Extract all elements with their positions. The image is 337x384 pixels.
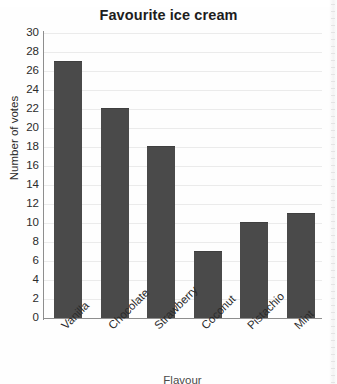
scan-artifact-tick	[331, 18, 335, 19]
scan-artifact-tick	[331, 81, 335, 82]
scan-artifact-tick	[331, 39, 335, 40]
scan-artifact-right	[329, 0, 337, 384]
gridline	[43, 90, 322, 91]
gridline	[43, 128, 322, 129]
gridline	[43, 166, 322, 167]
scan-artifact-tick	[331, 46, 335, 47]
gridline	[43, 71, 322, 72]
scan-artifact-tick	[331, 130, 335, 131]
y-axis-tick-label: 10	[3, 217, 39, 229]
scan-artifact-tick	[331, 137, 335, 138]
gridline	[43, 280, 322, 281]
scan-artifact-tick	[331, 172, 335, 173]
y-axis-tick-label: 0	[3, 312, 39, 324]
scan-artifact-tick	[331, 277, 335, 278]
gridline	[43, 33, 322, 34]
scan-artifact-tick	[331, 382, 335, 383]
scan-artifact-tick	[331, 67, 335, 68]
scan-artifact-top	[0, 0, 337, 7]
y-axis-tick-label: 30	[3, 27, 39, 39]
scan-artifact-tick	[331, 284, 335, 285]
x-axis-title: Flavour	[43, 374, 322, 384]
gridline	[43, 261, 322, 262]
bar	[147, 146, 175, 318]
plot-area	[43, 33, 322, 318]
y-axis-title: Number of votes	[8, 83, 20, 193]
scan-artifact-tick	[331, 200, 335, 201]
scan-artifact-tick	[331, 144, 335, 145]
scan-artifact-tick	[331, 361, 335, 362]
x-axis-line	[43, 318, 322, 319]
scan-artifact-tick	[331, 109, 335, 110]
scan-artifact-tick	[331, 158, 335, 159]
scan-artifact-tick	[331, 333, 335, 334]
scan-artifact-tick	[331, 221, 335, 222]
y-axis-tick-label: 12	[3, 198, 39, 210]
scan-artifact-tick	[331, 207, 335, 208]
y-axis-tick-label: 2	[3, 293, 39, 305]
scan-artifact-tick	[331, 60, 335, 61]
scan-artifact-tick	[331, 102, 335, 103]
scan-artifact-tick	[331, 228, 335, 229]
y-axis-line	[43, 31, 44, 320]
chart-title: Favourite ice cream	[0, 7, 337, 23]
gridline	[43, 223, 322, 224]
gridline	[43, 185, 322, 186]
scan-artifact-tick	[331, 319, 335, 320]
scan-artifact-tick	[331, 186, 335, 187]
y-axis-tick-label: 8	[3, 236, 39, 248]
gridline	[43, 52, 322, 53]
scan-artifact-tick	[331, 305, 335, 306]
scan-artifact-tick	[331, 298, 335, 299]
scan-artifact-tick	[331, 375, 335, 376]
bar	[101, 108, 129, 318]
scan-artifact-tick	[331, 95, 335, 96]
scan-artifact-tick	[331, 4, 335, 5]
scan-artifact-tick	[331, 165, 335, 166]
scan-artifact-tick	[331, 25, 335, 26]
scan-artifact-tick	[331, 354, 335, 355]
scan-artifact-tick	[331, 179, 335, 180]
scan-artifact-tick	[331, 270, 335, 271]
gridline	[43, 242, 322, 243]
y-axis-tick-label: 6	[3, 255, 39, 267]
y-axis-tick-label: 26	[3, 65, 39, 77]
scan-artifact-tick	[331, 340, 335, 341]
scan-artifact-tick	[331, 11, 335, 12]
scan-artifact-tick	[331, 347, 335, 348]
scan-artifact-tick	[331, 312, 335, 313]
y-axis-tick-label: 4	[3, 274, 39, 286]
scan-artifact-tick	[331, 263, 335, 264]
scan-artifact-tick	[331, 242, 335, 243]
scan-artifact-tick	[331, 249, 335, 250]
scan-artifact-tick	[331, 32, 335, 33]
scan-artifact-tick	[331, 256, 335, 257]
scan-artifact-tick	[331, 214, 335, 215]
bar	[287, 213, 315, 319]
y-axis-tick-label: 28	[3, 46, 39, 58]
scan-artifact-tick	[331, 123, 335, 124]
scan-artifact-tick	[331, 291, 335, 292]
bar	[54, 61, 82, 319]
gridline	[43, 147, 322, 148]
scan-artifact-tick	[331, 193, 335, 194]
scan-artifact-tick	[331, 326, 335, 327]
scan-artifact-tick	[331, 368, 335, 369]
gridline	[43, 204, 322, 205]
scan-artifact-tick	[331, 151, 335, 152]
scan-artifact-tick	[331, 74, 335, 75]
bar-chart-figure: Favourite ice cream 30282624222018161412…	[0, 0, 337, 384]
scan-artifact-tick	[331, 53, 335, 54]
gridline	[43, 109, 322, 110]
scan-artifact-tick	[331, 235, 335, 236]
scan-artifact-tick	[331, 116, 335, 117]
scan-artifact-tick	[331, 88, 335, 89]
